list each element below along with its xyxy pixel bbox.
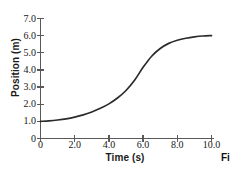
figure-root: Position (m) 01.02.03.04.05.06.07.0 02.0… xyxy=(0,0,239,171)
axes-group xyxy=(37,18,213,142)
plot-area xyxy=(0,0,239,171)
position-curve xyxy=(41,36,212,122)
